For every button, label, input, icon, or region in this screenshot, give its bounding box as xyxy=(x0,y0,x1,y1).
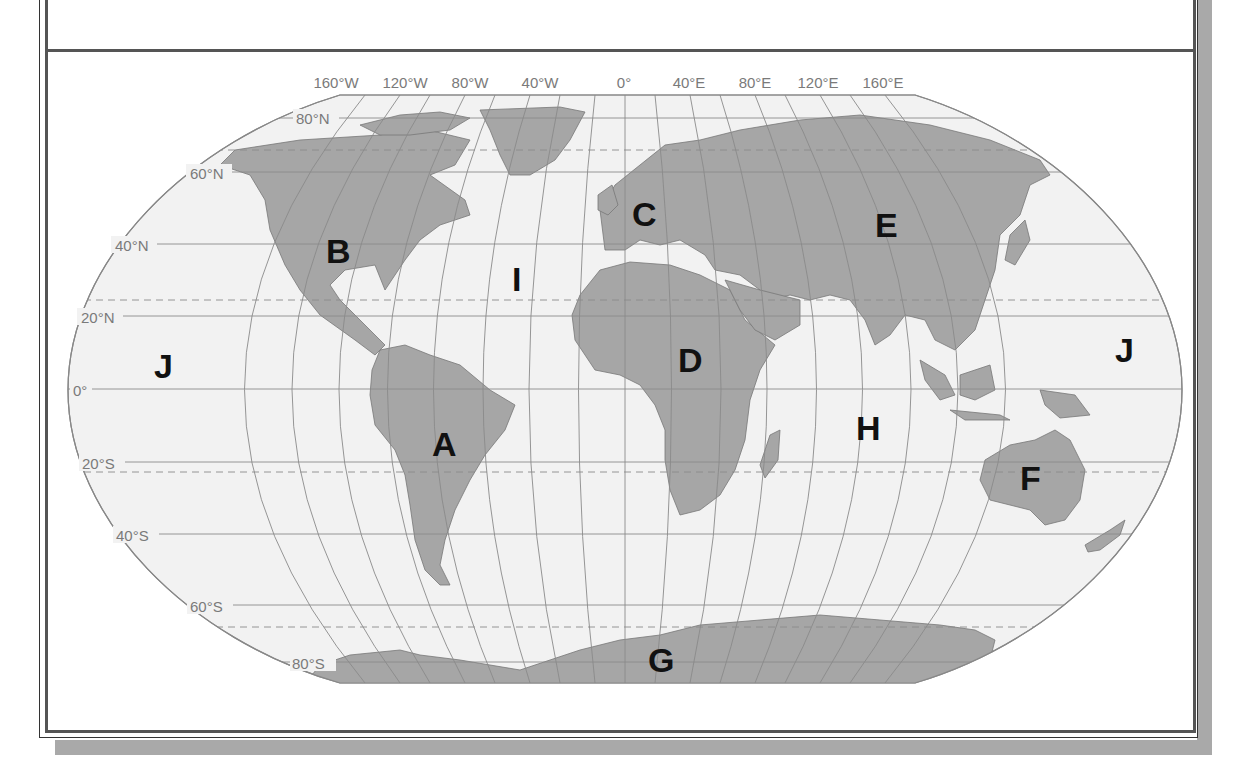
lat-label: 40°N xyxy=(115,237,149,254)
world-map: 160°W 120°W 80°W 40°W 0° 40°E 80°E 120°E… xyxy=(0,0,1246,763)
region-label-j-east-pacific: J xyxy=(154,347,173,385)
lat-label: 20°S xyxy=(82,455,115,472)
region-label-h: H xyxy=(856,409,881,447)
region-label-d: D xyxy=(678,341,703,379)
lat-label: 80°N xyxy=(296,110,330,127)
lat-label: 60°N xyxy=(190,165,224,182)
lon-label: 80°E xyxy=(739,74,772,91)
lat-label: 40°S xyxy=(116,527,149,544)
lon-label: 120°W xyxy=(382,74,428,91)
lat-label: 20°N xyxy=(81,309,115,326)
lat-label: 60°S xyxy=(190,598,223,615)
region-label-j-west-pacific: J xyxy=(1115,331,1134,369)
region-label-f: F xyxy=(1020,459,1041,497)
region-label-i: I xyxy=(512,260,521,298)
lon-label: 160°E xyxy=(862,74,903,91)
lat-label: 0° xyxy=(73,382,87,399)
lon-label: 80°W xyxy=(452,74,490,91)
region-label-b: B xyxy=(326,232,351,270)
region-label-c: C xyxy=(632,195,657,233)
region-label-a: A xyxy=(432,425,457,463)
lat-label: 80°S xyxy=(292,655,325,672)
lon-label: 40°E xyxy=(673,74,706,91)
lon-label: 160°W xyxy=(313,74,359,91)
region-label-g: G xyxy=(648,641,674,679)
longitude-labels: 160°W 120°W 80°W 40°W 0° 40°E 80°E 120°E… xyxy=(313,74,903,91)
lon-label: 40°W xyxy=(522,74,560,91)
lon-label: 0° xyxy=(617,74,631,91)
region-label-e: E xyxy=(875,206,898,244)
lon-label: 120°E xyxy=(797,74,838,91)
